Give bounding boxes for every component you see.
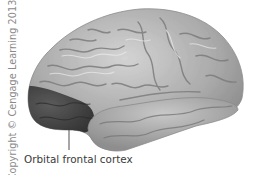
brain-illustration <box>0 0 253 175</box>
orbital-frontal-cortex-label: Orbital frontal cortex <box>24 153 133 165</box>
brain-diagram: Orbital frontal cortex Copyright © Cenga… <box>0 0 253 175</box>
copyright-notice: Copyright © Cengage Learning 2013 <box>7 0 18 175</box>
